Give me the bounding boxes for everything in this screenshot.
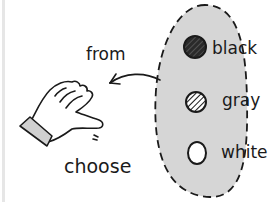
from-label: from	[86, 44, 126, 64]
option-white[interactable]: white	[188, 142, 268, 164]
option-gray[interactable]: gray	[186, 90, 260, 112]
white-swatch-icon	[188, 142, 206, 164]
option-label: black	[212, 38, 257, 58]
option-label: white	[221, 142, 268, 162]
option-label: gray	[222, 90, 260, 110]
choose-label: choose	[64, 155, 131, 177]
black-swatch-icon	[184, 36, 206, 58]
option-black[interactable]: black	[184, 36, 257, 58]
gray-swatch-icon	[186, 92, 206, 112]
arrow-left-icon	[110, 74, 160, 84]
choose-from-diagram: black gray white from choose	[0, 0, 280, 202]
